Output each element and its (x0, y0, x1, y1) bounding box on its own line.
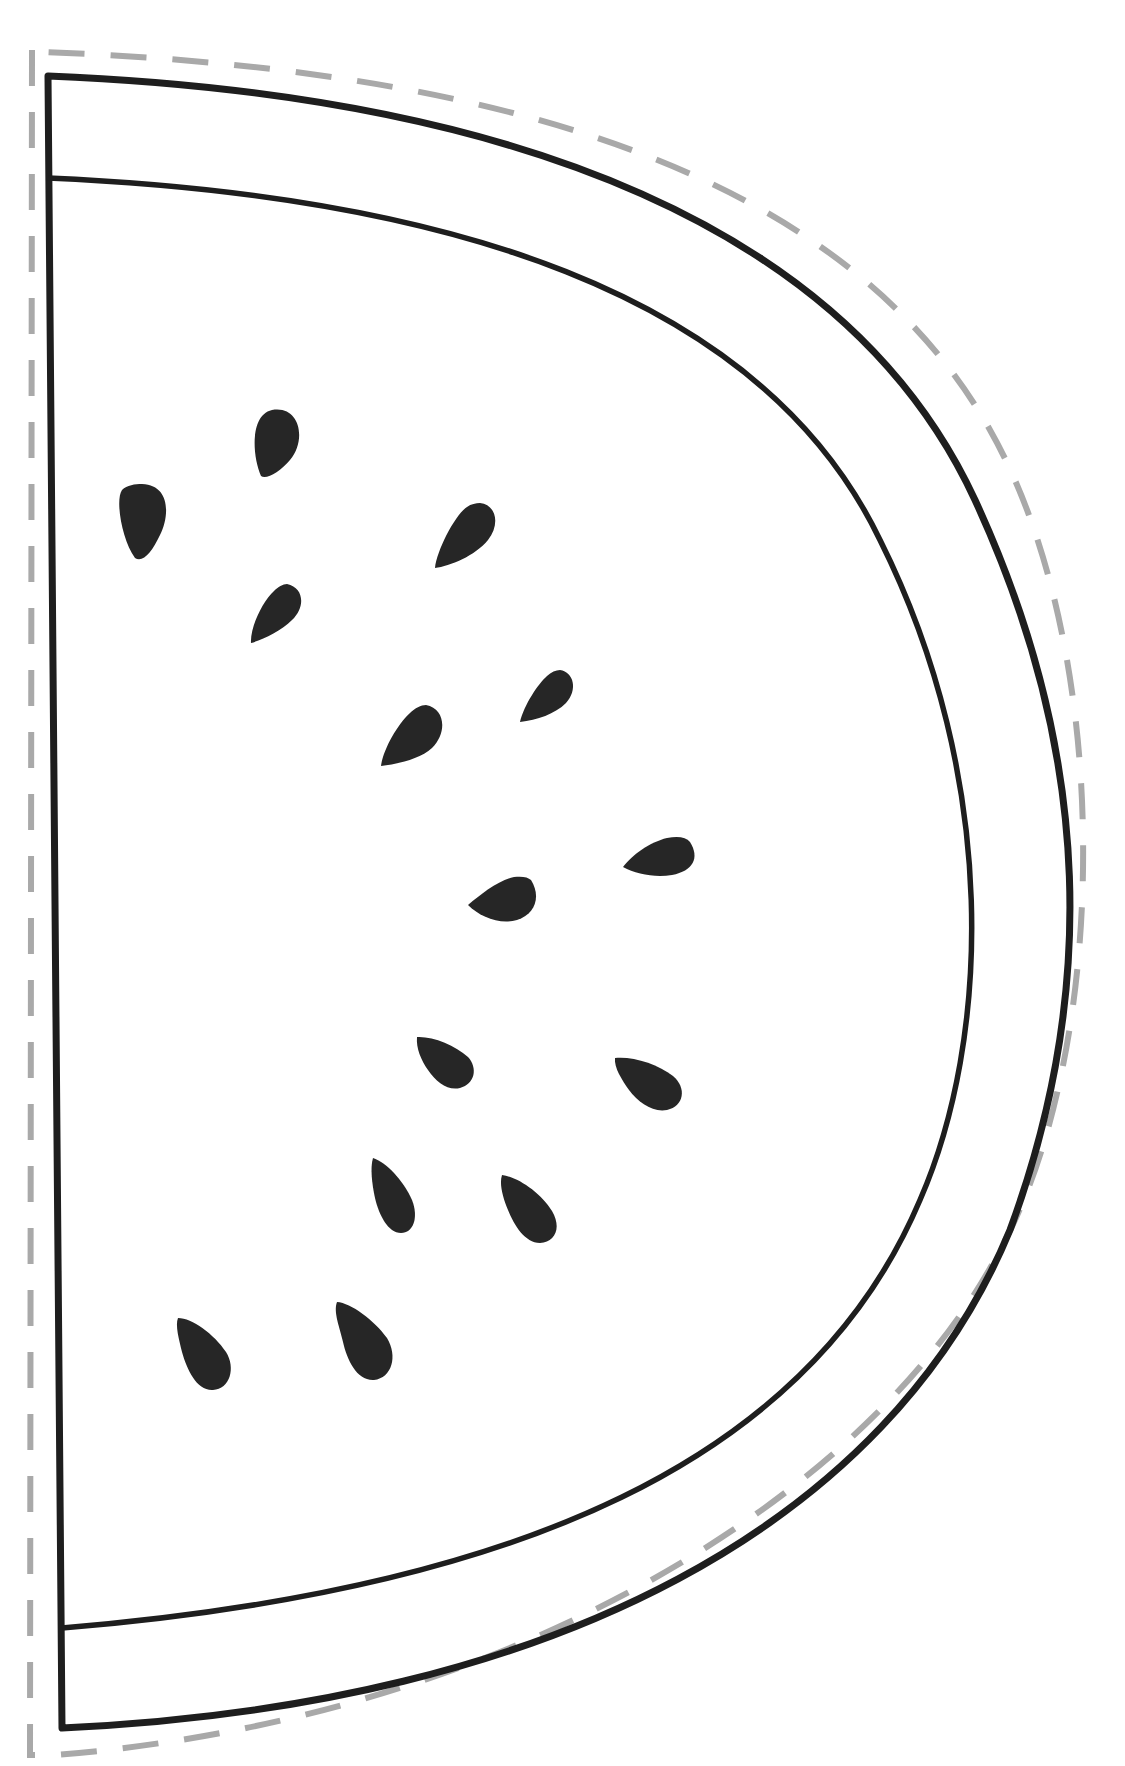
seeds (119, 410, 694, 1391)
seed-12 (501, 1175, 557, 1243)
watermelon-illustration (0, 0, 1125, 1766)
seed-7 (623, 837, 694, 876)
seed-9 (417, 1037, 474, 1089)
cut-line (30, 50, 1083, 1755)
seed-5 (520, 670, 573, 722)
seed-13 (177, 1318, 231, 1390)
seed-14 (336, 1302, 393, 1380)
seed-8 (468, 877, 536, 922)
coloring-page (0, 0, 1125, 1766)
seed-6 (381, 705, 442, 766)
seed-3 (435, 503, 495, 568)
seed-4 (251, 584, 301, 643)
seed-10 (615, 1058, 682, 1111)
seed-2 (119, 484, 166, 559)
rind-outer-outline (48, 76, 1070, 1728)
seed-11 (372, 1158, 415, 1233)
seed-1 (255, 410, 300, 478)
